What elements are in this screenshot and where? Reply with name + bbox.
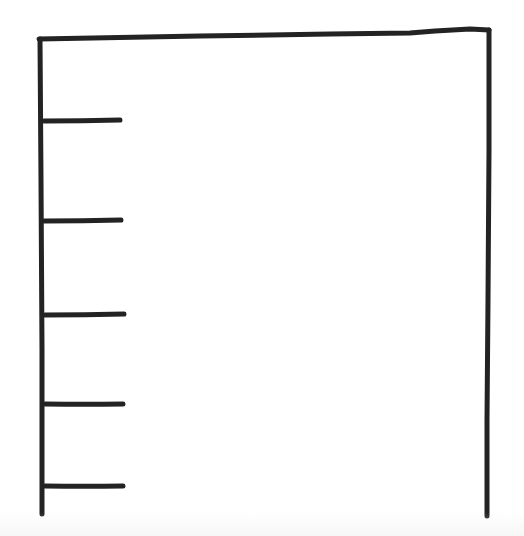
list-item-placeholder-bar bbox=[45, 314, 124, 315]
list-items bbox=[44, 120, 124, 486]
frame-right-edge bbox=[487, 30, 489, 516]
wireframe-sketch bbox=[0, 0, 524, 536]
paper-texture bbox=[0, 512, 524, 536]
frame-top-edge bbox=[39, 29, 489, 39]
panel-frame bbox=[39, 29, 489, 516]
list-item-placeholder-bar bbox=[44, 120, 120, 121]
list-item-placeholder-bar bbox=[44, 220, 121, 221]
frame-left-edge bbox=[40, 39, 42, 514]
